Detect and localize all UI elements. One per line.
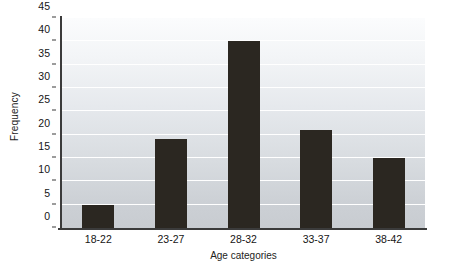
y-tick-label: 40 [38, 23, 50, 35]
bar [300, 130, 332, 228]
y-axis-line [60, 16, 62, 229]
x-tick-label: 28-32 [230, 233, 257, 245]
y-tick-mark [52, 157, 56, 158]
y-axis-title-text: Frequency [10, 91, 21, 140]
y-tick-mark [52, 110, 56, 111]
x-tick-label: 33-37 [303, 233, 330, 245]
y-tick-mark [52, 203, 56, 204]
x-tick-label: 38-42 [375, 233, 402, 245]
y-axis-tick-labels: 051015202530354045 [24, 18, 56, 228]
y-tick-mark [52, 17, 56, 18]
y-tick-label: 15 [38, 140, 50, 152]
x-axis-title: Age categories [62, 250, 425, 261]
y-tick-mark [52, 180, 56, 181]
bar [155, 139, 187, 228]
y-tick-label: 30 [38, 70, 50, 82]
y-tick-label: 25 [38, 93, 50, 105]
x-axis-line [58, 228, 427, 230]
y-tick-mark [52, 63, 56, 64]
bar [82, 205, 114, 228]
y-tick-mark [52, 40, 56, 41]
y-tick-label: 10 [38, 163, 50, 175]
x-tick-label: 23-27 [157, 233, 184, 245]
x-tick-label: 18-22 [85, 233, 112, 245]
y-tick-label: 5 [44, 187, 50, 199]
x-axis-tick-labels: 18-2223-2728-3233-3738-42 [62, 233, 425, 249]
bar-chart-figure: Frequency 051015202530354045 18-2223-272… [0, 0, 452, 275]
y-tick-label: 0 [44, 210, 50, 222]
y-tick-label: 45 [38, 0, 50, 12]
bar [373, 158, 405, 228]
y-tick-label: 35 [38, 47, 50, 59]
y-tick-mark [52, 227, 56, 228]
y-tick-mark [52, 133, 56, 134]
bar [228, 41, 260, 228]
y-tick-mark [52, 87, 56, 88]
plot-area [62, 18, 425, 228]
y-tick-label: 20 [38, 117, 50, 129]
